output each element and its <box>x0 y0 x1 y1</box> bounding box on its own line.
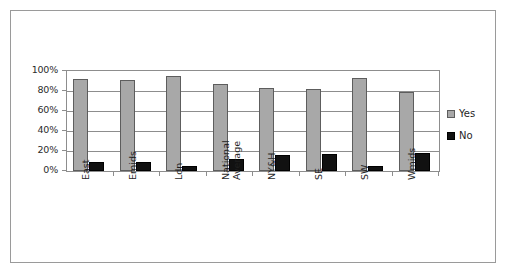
x-tick-label: National <box>220 100 231 180</box>
y-tick-label: 60% <box>37 105 58 115</box>
x-tick-mark <box>206 172 207 176</box>
legend-item: Yes <box>447 105 495 122</box>
x-tick-mark <box>438 172 439 176</box>
x-tick-mark <box>392 172 393 176</box>
black-square-swatch <box>447 132 455 140</box>
x-tick-label: Wmids <box>406 100 417 180</box>
x-tick-label: East <box>80 100 91 180</box>
legend-label: No <box>459 130 473 141</box>
y-axis: 0%20%40%60%80%100% <box>24 62 62 180</box>
x-tick-label: Ldn <box>173 100 184 180</box>
x-tick-mark <box>299 172 300 176</box>
plot-area <box>66 70 440 172</box>
x-tick-mark <box>345 172 346 176</box>
y-tick-label: 80% <box>37 85 58 95</box>
y-tick-label: 100% <box>32 65 58 75</box>
gray-square-swatch <box>447 110 455 118</box>
x-tick-mark <box>159 172 160 176</box>
x-tick-label: NY&H <box>266 100 277 180</box>
y-tick-label: 20% <box>37 145 58 155</box>
legend-item: No <box>447 127 495 144</box>
bar-group <box>399 71 440 171</box>
bar-no <box>89 162 104 171</box>
chart-legend: YesNo <box>447 105 495 149</box>
legend-label: Yes <box>459 108 475 119</box>
x-tick-label: Emids <box>127 100 138 180</box>
x-tick-label: SW <box>359 100 370 180</box>
x-tick-label: SE <box>313 100 324 180</box>
x-tick-mark <box>252 172 253 176</box>
bar-no <box>182 166 197 171</box>
bar-no <box>275 155 290 171</box>
y-tick-label: 40% <box>37 125 58 135</box>
bar-no <box>368 166 383 171</box>
x-tick-label: Average <box>231 100 242 180</box>
bar-chart-figure: 0%20%40%60%80%100% EastEmidsLdnNationalA… <box>0 0 507 274</box>
bar-group <box>120 71 161 171</box>
bar-group <box>306 71 347 171</box>
x-tick-mark <box>113 172 114 176</box>
y-tick-label: 0% <box>43 165 58 175</box>
